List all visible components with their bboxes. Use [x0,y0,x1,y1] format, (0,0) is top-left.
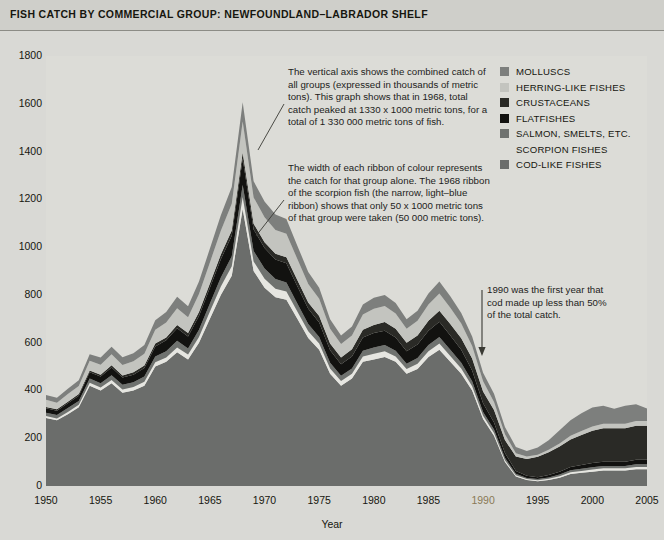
legend-swatch-icon [500,83,509,92]
x-tick-label: 1965 [187,494,233,506]
title-bar: FISH CATCH BY COMMERCIAL GROUP: NEWFOUND… [0,0,664,31]
legend-item: SCORPION FISHES [500,142,660,158]
annotation-axis-explanation: The vertical axis shows the combined cat… [288,66,493,129]
legend-label: SALMON, SMELTS, ETC. [516,128,631,139]
y-tick-label: 0 [2,479,42,491]
x-tick-label: 1990 [460,494,506,506]
annotation-ribbon-explanation: The width of each ribbon of colour repre… [288,162,493,225]
legend-item: COD-LIKE FISHES [500,157,660,173]
legend-label: HERRING-LIKE FISHES [516,82,625,93]
legend-swatch-icon [500,145,509,154]
legend-label: MOLLUSCS [516,66,570,77]
y-axis-title-wrap: Catch (metric tons x 1000) [14,60,34,480]
legend-label: FLATFISHES [516,113,575,124]
x-tick-label: 1995 [515,494,561,506]
legend-item: MOLLUSCS [500,64,660,80]
legend-swatch-icon [500,114,509,123]
x-tick-label: 1975 [296,494,342,506]
legend-swatch-icon [500,129,509,138]
annotation-1990-cod: 1990 was the first year that cod made up… [487,284,607,322]
legend-swatch-icon [500,98,509,107]
chart-page: FISH CATCH BY COMMERCIAL GROUP: NEWFOUND… [0,0,664,540]
annotation-3-text: 1990 was the first year that cod made up… [487,284,607,322]
legend-item: FLATFISHES [500,111,660,127]
x-tick-label: 1980 [351,494,397,506]
x-axis-ticks: 1950195519601965197019751980198519901995… [46,494,647,512]
legend: MOLLUSCSHERRING-LIKE FISHESCRUSTACEANSFL… [500,64,660,173]
legend-item: CRUSTACEANS [500,95,660,111]
annotation-1-text: The vertical axis shows the combined cat… [288,66,493,129]
legend-label: SCORPION FISHES [516,144,608,155]
legend-item: SALMON, SMELTS, ETC. [500,126,660,142]
x-tick-label: 2000 [569,494,615,506]
x-tick-label: 1955 [78,494,124,506]
legend-item: HERRING-LIKE FISHES [500,80,660,96]
x-axis-title: Year [0,518,664,530]
x-tick-label: 1960 [132,494,178,506]
x-tick-label: 1985 [405,494,451,506]
legend-swatch-icon [500,67,509,76]
x-tick-label: 1950 [23,494,69,506]
x-tick-label: 1970 [242,494,288,506]
legend-label: CRUSTACEANS [516,97,590,108]
page-title: FISH CATCH BY COMMERCIAL GROUP: NEWFOUND… [10,8,428,20]
annotation-2-text: The width of each ribbon of colour repre… [288,162,493,225]
legend-swatch-icon [500,160,509,169]
x-tick-label: 2005 [624,494,664,506]
legend-label: COD-LIKE FISHES [516,159,602,170]
